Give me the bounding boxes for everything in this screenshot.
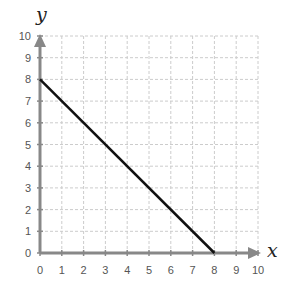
y-tick-label: 5 [25,139,31,151]
x-tick-label: 1 [59,264,65,276]
tick-labels: 012345678910012345678910 [19,30,264,276]
x-tick-label: 9 [233,264,239,276]
x-tick-label: 4 [124,264,130,276]
x-tick-label: 7 [190,264,196,276]
x-tick-label: 8 [211,264,217,276]
x-tick-label: 10 [252,264,264,276]
y-tick-label: 1 [25,225,31,237]
y-tick-label: 8 [25,73,31,85]
y-tick-label: 4 [25,160,31,172]
y-axis-label: y [35,3,47,25]
y-tick-label: 3 [25,182,31,194]
axes [34,34,261,259]
x-tick-label: 5 [146,264,152,276]
x-tick-label: 0 [37,264,43,276]
y-tick-label: 6 [25,117,31,129]
x-tick-label: 6 [168,264,174,276]
y-tick-label: 2 [25,204,31,216]
y-tick-label: 7 [25,95,31,107]
y-tick-label: 0 [25,247,31,259]
x-tick-label: 3 [102,264,108,276]
x-axis-arrow-icon [248,247,261,259]
line-chart: 012345678910012345678910 y x [0,0,288,301]
x-tick-label: 2 [81,264,87,276]
grid-lines [40,36,258,253]
y-tick-label: 9 [25,52,31,64]
x-axis-label: x [267,239,278,261]
y-tick-label: 10 [19,30,31,42]
